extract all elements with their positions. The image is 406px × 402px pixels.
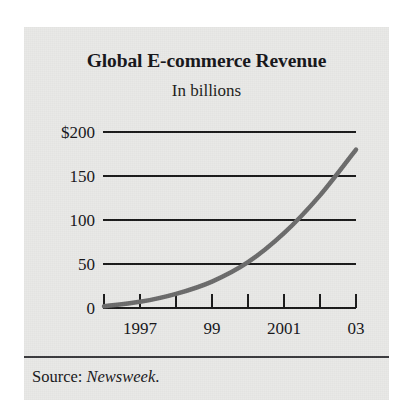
y-tick-label-group: $200 150 100 50 0: [61, 123, 95, 318]
x-tick-label-03: 03: [348, 319, 365, 338]
y-tick-label-200: $200: [61, 123, 95, 142]
source-suffix-label: .: [155, 367, 159, 386]
chart-screenshot: Global E-commerce Revenue In billions: [0, 0, 406, 402]
source-divider-rule: [24, 356, 389, 358]
revenue-line-series: [104, 150, 356, 307]
line-chart-plot: $200 150 100 50 0 1997 99 2001 03: [24, 27, 389, 400]
source-prefix-label: Source:: [32, 367, 87, 386]
x-tick-label-99: 99: [204, 319, 221, 338]
y-tick-label-0: 0: [87, 299, 96, 318]
x-tick-label-2001: 2001: [267, 319, 301, 338]
x-tick-label-group: 1997 99 2001 03: [123, 319, 365, 338]
y-tick-label-50: 50: [78, 255, 95, 274]
source-credit: Source: Newsweek.: [32, 367, 159, 387]
y-tick-label-100: 100: [70, 211, 96, 230]
source-publication-name: Newsweek: [87, 367, 156, 386]
figure-panel: Global E-commerce Revenue In billions: [24, 27, 389, 400]
y-tick-label-150: 150: [70, 167, 96, 186]
x-tick-label-1997: 1997: [123, 319, 158, 338]
